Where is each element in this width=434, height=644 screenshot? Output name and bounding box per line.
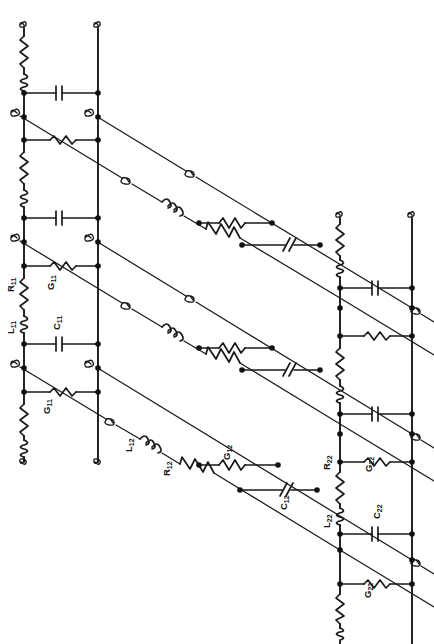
inductor-symbol — [162, 324, 183, 341]
label-G11: G11 — [45, 275, 57, 290]
label-C22: C22 — [371, 504, 383, 519]
node-dot — [409, 431, 415, 437]
node-dot — [21, 263, 27, 269]
resistor-symbol — [50, 388, 76, 396]
node-dot — [95, 365, 101, 371]
node-dot — [21, 239, 27, 245]
resistor-symbol — [336, 472, 344, 504]
coupling-rung-group-labeled — [199, 460, 317, 496]
wire-break-icon — [121, 303, 130, 310]
diagonal-wire — [340, 298, 434, 355]
node-dot — [337, 531, 343, 537]
inductor-symbol — [140, 436, 161, 453]
diagonal-wire — [132, 309, 162, 327]
resistor-symbol — [336, 224, 344, 256]
node-dot — [409, 333, 415, 339]
diagonal-wire — [196, 177, 412, 308]
circuit-schematic: R11 L11 G11 C11 G11 L12 R12 G12 C12 R22 — [0, 0, 434, 644]
node-dot — [337, 431, 343, 437]
node-dot — [95, 239, 101, 245]
port-1-ladder — [20, 22, 100, 465]
component-labels: R11 L11 G11 C11 G11 L12 R12 G12 C12 R22 — [5, 275, 383, 598]
node-dot — [337, 581, 343, 587]
wire-break-icon — [11, 360, 20, 367]
node-dot — [21, 137, 27, 143]
node-dot — [95, 215, 101, 221]
wire-break-icon — [11, 234, 20, 241]
node-dot — [95, 114, 101, 120]
right-rail-outer — [408, 212, 414, 644]
diagonal-wire — [96, 116, 186, 171]
resistor-symbol — [20, 36, 28, 68]
wire-break-icon — [94, 459, 100, 464]
node-dot — [95, 263, 101, 269]
diagonal-rail-4 — [85, 234, 434, 448]
resistor-symbol — [219, 460, 245, 470]
diagonal-wire — [240, 363, 340, 424]
wire-break-icon — [185, 296, 194, 303]
node-dot — [21, 90, 27, 96]
wire-break-icon — [185, 171, 194, 178]
node-dot — [275, 462, 281, 468]
inductor-symbol — [337, 628, 344, 640]
resistor-symbol — [20, 278, 28, 310]
resistor-symbol — [20, 152, 28, 184]
label-G11-second: G11 — [41, 399, 53, 414]
label-R12: R12 — [161, 461, 173, 476]
diagonal-wire — [20, 241, 122, 303]
diagonal-wire — [340, 550, 434, 607]
node-dot — [409, 459, 415, 465]
diagonal-wire — [421, 566, 434, 574]
node-dot — [337, 547, 343, 553]
wire-break-icon — [408, 212, 414, 217]
resistor-symbol — [364, 332, 390, 340]
node-dot — [337, 285, 343, 291]
coupling-rung-group-upper — [199, 218, 320, 251]
node-dot — [409, 305, 415, 311]
resistor-symbol — [206, 347, 240, 363]
node-dot — [337, 305, 343, 311]
diagonal-wire — [20, 367, 106, 419]
node-dot — [409, 411, 415, 417]
node-dot — [317, 367, 323, 373]
inductor-symbol — [162, 199, 183, 216]
diagonal-wire — [340, 424, 434, 481]
diagonal-wire — [132, 184, 162, 202]
node-dot — [21, 114, 27, 120]
node-dot — [21, 215, 27, 221]
diagonal-rail-5 — [11, 360, 434, 607]
node-dot — [337, 411, 343, 417]
label-G12: G12 — [221, 445, 233, 460]
resistor-symbol — [336, 594, 344, 624]
port-2-shunt-rungs — [340, 281, 412, 588]
node-dot — [196, 220, 202, 226]
resistor-symbol — [20, 404, 28, 436]
wire-break-icon — [85, 109, 94, 116]
resistor-symbol — [206, 222, 240, 238]
node-dot — [317, 242, 323, 248]
label-G22-second: G22 — [362, 583, 374, 598]
wire-break-icon — [85, 360, 94, 367]
node-dot — [21, 341, 27, 347]
node-dot — [337, 333, 343, 339]
label-R11: R11 — [5, 278, 17, 292]
label-G22: G22 — [363, 457, 375, 472]
resistor-symbol — [50, 262, 76, 270]
node-dot — [409, 557, 415, 563]
label-L22: L22 — [321, 514, 333, 528]
wire-break-icon — [336, 212, 342, 217]
node-dot — [237, 487, 243, 493]
node-dot — [409, 581, 415, 587]
node-dot — [21, 365, 27, 371]
node-dot — [95, 389, 101, 395]
label-L12: L12 — [123, 438, 135, 452]
diagonal-wire — [421, 314, 434, 322]
coupling-rung-group-middle — [199, 343, 320, 376]
node-dot — [95, 137, 101, 143]
diagonal-wire — [214, 473, 340, 550]
right-rail-inner — [336, 212, 344, 644]
node-dot — [196, 462, 202, 468]
diagonal-rail-2 — [85, 109, 434, 322]
node-dot — [409, 285, 415, 291]
diagonal-wire — [240, 238, 340, 298]
